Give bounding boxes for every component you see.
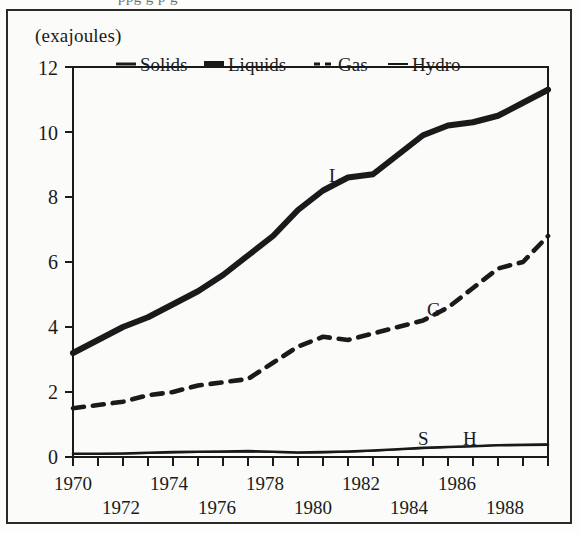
series-line-liquids <box>73 90 548 353</box>
x-tick-label: 1978 <box>235 474 295 493</box>
series-annotation-liquids: L <box>329 166 341 185</box>
y-tick-label: 8 <box>24 187 58 207</box>
legend-label-gas: Gas <box>338 55 368 74</box>
legend-label-hydro: Hydro <box>412 55 461 74</box>
legend-label-solids: Solids <box>140 55 188 74</box>
series-annotation-hydro: H <box>463 429 477 448</box>
series-annotation-gas: G <box>427 300 441 319</box>
plot-area: 12 10 8 6 4 2 0 1970 1974 1978 1982 1986… <box>8 11 574 526</box>
y-tick-label: 6 <box>24 252 58 272</box>
x-tick-label: 1972 <box>91 498 151 517</box>
x-tick-label: 1970 <box>43 474 103 493</box>
x-tick-label: 1980 <box>283 498 343 517</box>
chart-canvas <box>8 11 574 526</box>
figure-frame: (exajoules) 12 10 8 6 4 2 0 1970 1974 19… <box>6 9 572 524</box>
x-tick-label: 1974 <box>139 474 199 493</box>
series-line-gas <box>73 236 548 408</box>
y-tick-label: 4 <box>24 317 58 337</box>
y-tick-label: 12 <box>24 58 58 78</box>
x-tick-label: 1988 <box>475 498 535 517</box>
cropped-caption-above-figure: ppg g p g <box>0 0 579 9</box>
y-tick-label: 0 <box>24 447 58 467</box>
x-tick-label: 1976 <box>187 498 247 517</box>
series-annotation-solids: S <box>418 429 429 448</box>
y-tick-label: 2 <box>24 382 58 402</box>
legend-label-liquids: Liquids <box>228 55 286 74</box>
y-tick-label: 10 <box>24 123 58 143</box>
cropped-caption-text: ppg g p g <box>118 0 178 6</box>
x-tick-label: 1984 <box>379 498 439 517</box>
x-tick-label: 1982 <box>331 474 391 493</box>
x-tick-label: 1986 <box>427 474 487 493</box>
